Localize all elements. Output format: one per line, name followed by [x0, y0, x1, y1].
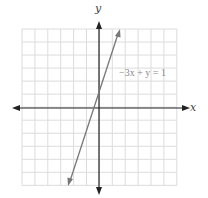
x-axis — [12, 105, 190, 111]
x-axis-label: x — [190, 101, 196, 114]
equation-label: −3x + y = 1 — [119, 67, 166, 78]
y-axis-label: y — [95, 2, 101, 15]
graph — [0, 0, 208, 198]
